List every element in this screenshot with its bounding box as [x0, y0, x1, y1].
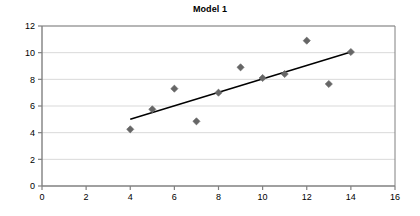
x-axis-ticks: 0246810121416: [39, 186, 400, 202]
y-tick-label: 2: [30, 155, 35, 165]
data-point-marker: [259, 74, 266, 81]
x-tick-label: 14: [346, 192, 356, 202]
y-tick-label: 4: [30, 128, 35, 138]
x-tick-label: 6: [172, 192, 177, 202]
y-tick-label: 0: [30, 181, 35, 191]
chart-container: Model 1 0246810121416 024681012: [0, 0, 420, 216]
scatter-plot: 0246810121416 024681012: [0, 0, 420, 216]
y-tick-label: 6: [30, 101, 35, 111]
data-point-marker: [303, 37, 310, 44]
data-point-marker: [237, 64, 244, 71]
y-tick-label: 8: [30, 75, 35, 85]
x-tick-label: 4: [128, 192, 133, 202]
data-point-marker: [171, 85, 178, 92]
x-tick-label: 8: [216, 192, 221, 202]
data-point-marker: [325, 80, 332, 87]
trend-line-path: [130, 52, 351, 119]
data-point-marker: [347, 48, 354, 55]
y-axis-ticks: 024681012: [25, 21, 42, 191]
x-tick-label: 0: [39, 192, 44, 202]
y-tick-label: 10: [25, 48, 35, 58]
trend-line: [130, 52, 351, 119]
data-point-marker: [215, 89, 222, 96]
x-tick-label: 16: [390, 192, 400, 202]
x-tick-label: 12: [302, 192, 312, 202]
x-tick-label: 2: [84, 192, 89, 202]
data-point-marker: [193, 118, 200, 125]
x-tick-label: 10: [258, 192, 268, 202]
y-tick-label: 12: [25, 21, 35, 31]
data-point-marker: [127, 126, 134, 133]
